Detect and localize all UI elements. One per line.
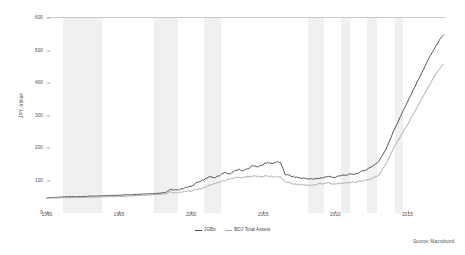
legend-swatch-icon: [195, 230, 202, 231]
chart-figure: JPY, trillion 0100200300400500600 199019…: [0, 0, 465, 255]
x-tick-label: 2010: [330, 213, 341, 218]
y-tick-label: 500: [35, 48, 43, 53]
y-tick-label: 600: [35, 16, 43, 21]
legend-swatch-icon: [225, 230, 232, 231]
y-tick-label: 100: [35, 178, 43, 183]
source-attribution: Source: Macrobond: [413, 240, 454, 245]
legend-item[interactable]: BOJ Total Assets: [225, 228, 271, 233]
series-line-jgbs: [47, 35, 444, 198]
chart-legend: JGBsBOJ Total Assets: [0, 228, 465, 233]
legend-item[interactable]: JGBs: [195, 228, 216, 233]
series-line-boj-total-assets: [47, 64, 444, 198]
y-axis-title: JPY, trillion: [20, 93, 25, 118]
y-tick-label: 200: [35, 146, 43, 151]
x-tick-label: 1995: [114, 213, 125, 218]
legend-label: JGBs: [204, 228, 216, 233]
x-tick-label: 2000: [186, 213, 197, 218]
y-tick-label: 400: [35, 81, 43, 86]
plot-area: 0100200300400500600: [47, 17, 445, 212]
legend-label: BOJ Total Assets: [234, 228, 270, 233]
x-tick-label: 1990: [42, 213, 53, 218]
x-tick-label: 2015: [402, 213, 413, 218]
y-tick-label: 300: [35, 113, 43, 118]
x-tick-label: 2005: [258, 213, 269, 218]
series-lines: [47, 18, 445, 213]
